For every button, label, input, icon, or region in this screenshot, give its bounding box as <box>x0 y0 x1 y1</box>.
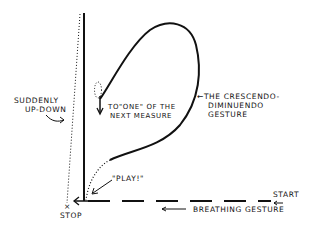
stop-x-icon: × <box>64 202 71 211</box>
play-arrow-shaft <box>93 180 112 193</box>
suddenly-line-2: UP-DOWN <box>14 105 66 114</box>
crescendo-label: ←THE CRESCENDO- DIMINUENDO GESTURE <box>197 92 280 119</box>
play-label: "PLAY!" <box>112 174 144 183</box>
stop-mark: × <box>64 202 71 211</box>
play-text: "PLAY!" <box>112 174 144 183</box>
crescendo-curve <box>100 23 199 160</box>
crescendo-line-3: GESTURE <box>197 110 280 119</box>
breathing-text: BREATHING GESTURE <box>193 205 284 214</box>
play-arrow-head <box>92 188 98 194</box>
dotted-up-down-line <box>67 14 80 203</box>
stop-text: STOP <box>60 211 82 220</box>
dotted-play-curve <box>86 160 110 200</box>
suddenly-up-down-label: SUDDENLY UP-DOWN <box>14 96 66 114</box>
to-one-line-1: TO"ONE" OF THE <box>108 103 176 112</box>
breathing-label: BREATHING GESTURE <box>193 205 284 214</box>
suddenly-arrow-head <box>60 117 64 123</box>
to-one-label: TO"ONE" OF THE NEXT MEASURE <box>108 103 176 121</box>
start-label: START <box>273 190 299 199</box>
dotted-loop <box>95 82 102 98</box>
stop-label: STOP <box>60 211 82 220</box>
crescendo-line-1: ←THE CRESCENDO- <box>197 92 280 101</box>
start-text: START <box>273 190 299 199</box>
to-one-line-2: NEXT MEASURE <box>108 112 176 121</box>
crescendo-line-2: DIMINUENDO <box>197 101 280 110</box>
suddenly-line-1: SUDDENLY <box>14 96 66 105</box>
